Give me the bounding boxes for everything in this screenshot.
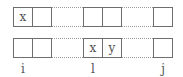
row1-connector-top-2 (122, 7, 153, 8)
label-l: l (83, 63, 103, 75)
row2-group-l-cell-2: y (102, 38, 122, 58)
row1-group-l-cell-1 (83, 7, 103, 27)
row1-group-j-cell-1 (153, 7, 173, 27)
row2-group-l-cell-1: x (83, 38, 103, 58)
label-j: j (153, 63, 173, 75)
row1-connector-bottom-2 (122, 26, 153, 27)
row2-connector-top-2 (122, 38, 153, 39)
row2-group-i-cell-1 (13, 38, 33, 58)
row2-connector-bottom-1 (52, 57, 83, 58)
row1-group-i-cell-1: x (13, 7, 33, 27)
row1-group-i-cell-2 (32, 7, 52, 27)
row2-group-j-cell-1 (153, 38, 173, 58)
label-i: i (13, 63, 33, 75)
row1-group-l-cell-2 (102, 7, 122, 27)
row1-connector-top-1 (52, 7, 83, 8)
row2-connector-bottom-2 (122, 57, 153, 58)
row2-group-i-cell-2 (32, 38, 52, 58)
row2-connector-top-1 (52, 38, 83, 39)
row1-connector-bottom-1 (52, 26, 83, 27)
